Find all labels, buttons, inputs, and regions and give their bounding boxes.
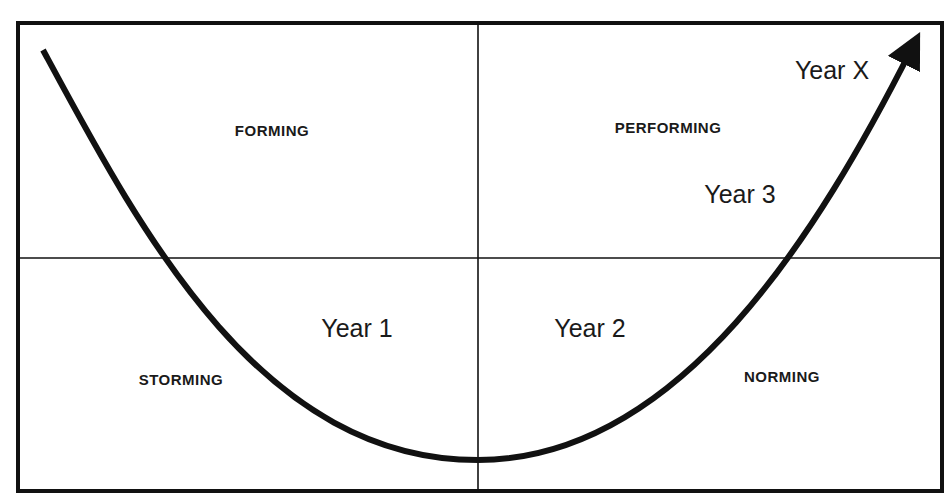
performing-label: PERFORMING [615, 119, 722, 136]
norming-label: NORMING [744, 368, 820, 385]
year-x-label: Year X [795, 56, 869, 84]
year-3-label: Year 3 [704, 180, 775, 208]
year-1-label: Year 1 [321, 314, 392, 342]
outer-frame [18, 23, 942, 491]
year-2-label: Year 2 [554, 314, 625, 342]
team-development-diagram: FORMING PERFORMING STORMING NORMING Year… [0, 0, 951, 504]
storming-label: STORMING [139, 371, 224, 388]
forming-label: FORMING [235, 122, 309, 139]
